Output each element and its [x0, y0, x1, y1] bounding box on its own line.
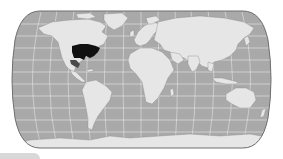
world-map — [0, 0, 283, 159]
world-map-svg — [0, 0, 283, 159]
bottom-tab — [0, 153, 40, 159]
